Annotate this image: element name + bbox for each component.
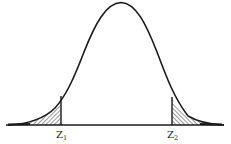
normal-distribution-diagram: Z1 Z2 [0,0,231,144]
left-tail-shaded-region [14,97,61,125]
bell-curve [8,3,224,126]
right-tail-end [200,124,222,125]
left-tail-end [8,124,30,125]
z2-label: Z2 [167,129,178,142]
z1-label: Z1 [56,129,67,142]
